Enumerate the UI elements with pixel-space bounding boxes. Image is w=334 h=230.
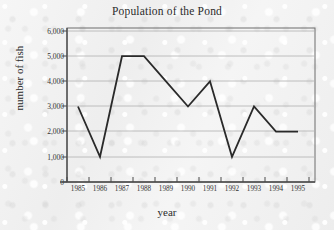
x-tick-mark-group: [67, 177, 309, 182]
line-chart-figure: Population of the Pond number of fish ye…: [0, 0, 334, 230]
plot-area-svg: [0, 0, 334, 230]
y-tick-mark-group: [62, 31, 67, 182]
plot-frame: [67, 28, 315, 182]
data-series-line: [78, 56, 298, 157]
